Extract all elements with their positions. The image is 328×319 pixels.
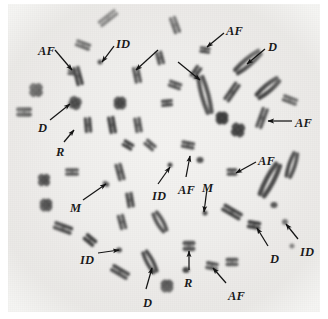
chromosome-long	[152, 212, 167, 232]
chromosome-pair	[155, 50, 166, 65]
annotation-label-id-center: ID	[152, 190, 166, 203]
annotation-label-id-bottom-right: ID	[300, 246, 314, 259]
chromosome-pair	[183, 241, 196, 251]
annotation-label-d-left: D	[38, 122, 47, 135]
chromosome-dot	[168, 163, 173, 168]
chromosome-pair	[109, 263, 131, 280]
annotation-label-r-bottom-center: R	[184, 277, 193, 290]
chromosome-long	[285, 153, 298, 178]
annotation-label-m-left: M	[70, 202, 81, 215]
chromosome-pair	[255, 106, 270, 129]
chromosome-pair	[246, 220, 261, 231]
chromosome-pair	[74, 39, 92, 52]
chromosome-dot	[290, 244, 295, 249]
chromosome-pair	[223, 81, 242, 103]
chromosome-dot	[102, 180, 111, 188]
chromosome-pair	[180, 140, 195, 150]
annotation-label-af-right-upper: AF	[295, 117, 312, 130]
chromosome-pair	[125, 191, 135, 208]
annotation-label-r-left: R	[56, 146, 65, 159]
chromosome-pair	[227, 168, 238, 176]
chromosome-dot	[203, 211, 208, 216]
chromosome-X	[38, 197, 53, 213]
annotation-label-id-top-left: ID	[116, 38, 130, 51]
chromosome-pair	[133, 116, 143, 133]
chromosome-pair	[116, 213, 127, 230]
chromosome-pair	[205, 261, 219, 272]
chromosome-long	[259, 163, 281, 196]
chromosome-pair	[107, 115, 118, 134]
annotation-label-af-right-lower: AF	[258, 155, 275, 168]
chromosome-pair	[199, 46, 211, 54]
chromosome-pair	[168, 15, 181, 34]
chromosome-pair	[82, 232, 98, 247]
chromosome-X	[112, 95, 127, 111]
micrograph-figure: AFIDAFDDRAFAFMIDAFMIDDRAFDID	[0, 0, 328, 319]
annotation-label-af-top-right: AF	[226, 25, 243, 38]
chromosome-pair	[121, 139, 135, 152]
chromosome-pair	[220, 203, 243, 221]
annotation-label-af-bottom-right: AF	[228, 290, 245, 303]
annotation-label-af-center: AF	[178, 184, 195, 197]
chromosome-pair	[65, 168, 79, 176]
chromosome-pair	[281, 94, 299, 107]
chromosome-X	[37, 173, 52, 188]
chromosome-pair	[143, 138, 158, 152]
chromosome-dot	[271, 202, 278, 208]
annotation-label-d-bottom-center: D	[143, 297, 152, 310]
chromosome-pair	[84, 117, 93, 134]
chromosome-long	[256, 77, 280, 99]
chromosome-pair	[132, 66, 143, 84]
chromosome-long	[142, 251, 158, 273]
chromosome-pair	[226, 258, 239, 266]
annotation-label-m-center: M	[202, 182, 213, 195]
chromosome-dot	[98, 60, 103, 65]
chromosome-X	[28, 82, 44, 99]
chromosome-long	[234, 50, 261, 74]
chromosome-dot	[282, 219, 288, 225]
annotation-label-d-top-right: D	[268, 41, 277, 54]
chromosome-pair	[161, 99, 174, 108]
annotation-label-af-top-left: AF	[38, 45, 55, 58]
chromosome-X	[65, 93, 85, 113]
annotation-label-id-bottom-left: ID	[80, 254, 94, 267]
chromosome-X	[159, 278, 174, 294]
chromosome-dot	[183, 267, 190, 273]
chromosome-pair	[72, 65, 84, 86]
chromosome-pair	[97, 8, 119, 27]
chromosome-pair	[52, 221, 74, 236]
chromosome-pair	[114, 162, 126, 181]
chromosome-pair	[167, 79, 183, 91]
chromosome-dot	[116, 248, 122, 253]
chromosome-X	[214, 110, 229, 126]
chromosome-dot	[197, 157, 204, 163]
annotation-label-d-bottom-right: D	[270, 253, 279, 266]
chromosome-long	[197, 77, 213, 113]
chromosome-X	[229, 120, 248, 139]
chromosome-pair	[16, 107, 32, 116]
